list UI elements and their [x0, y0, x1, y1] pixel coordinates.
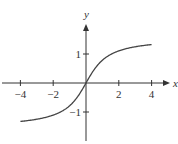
x-tick-label: −2 — [47, 88, 59, 100]
x-tick-label: 2 — [116, 88, 122, 100]
y-tick-label: 1 — [76, 48, 82, 60]
x-tick-label: 4 — [149, 88, 155, 100]
x-tick-label: −4 — [15, 88, 27, 100]
y-axis-arrow-icon — [83, 24, 89, 31]
x-axis-arrow-icon — [163, 80, 170, 86]
y-tick-label: −1 — [69, 106, 81, 118]
y-axis-label: y — [83, 8, 89, 20]
x-axis-label: x — [172, 77, 178, 89]
arctan-chart: −4−2241−1 x y — [0, 0, 178, 144]
